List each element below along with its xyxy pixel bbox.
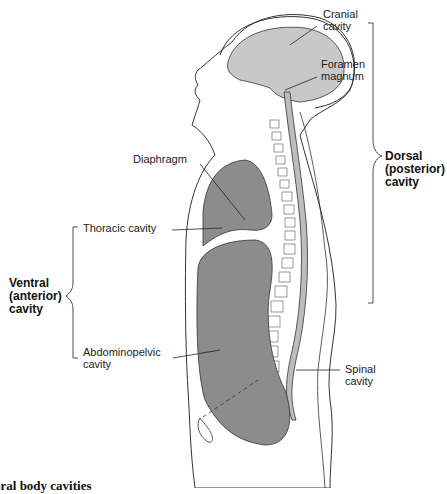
spinal-cavity-shape xyxy=(284,92,308,420)
thoracic-cavity-shape xyxy=(203,160,272,246)
label-cranial-cavity: Cranial cavity xyxy=(323,8,358,32)
label-diaphragm: Diaphragm xyxy=(133,153,187,165)
ventral-bracket xyxy=(66,227,78,358)
label-abdominopelvic-cavity: Abdominopelvic cavity xyxy=(83,346,161,370)
group-ventral-cavity: Ventral (anterior) cavity xyxy=(9,277,62,316)
label-thoracic-cavity: Thoracic cavity xyxy=(83,222,156,234)
dorsal-bracket xyxy=(368,23,382,303)
hip-bone-shape xyxy=(198,418,212,442)
group-dorsal-cavity: Dorsal (posterior) cavity xyxy=(385,150,445,189)
figure-caption: oral body cavities xyxy=(0,478,92,494)
vertebrae xyxy=(266,120,295,372)
label-spinal-cavity: Spinal cavity xyxy=(345,363,376,387)
label-foramen-magnum: Foramen magnum xyxy=(321,58,365,82)
abdominopelvic-cavity-shape xyxy=(197,240,290,445)
